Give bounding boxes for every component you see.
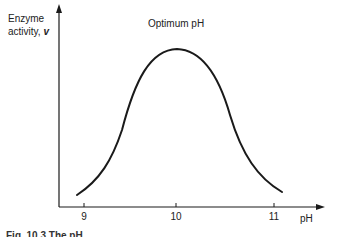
x-axis-arrow-icon xyxy=(316,204,325,210)
chart-plot xyxy=(0,0,350,237)
x-tick-label-11: 11 xyxy=(269,211,279,222)
x-tick-label-9: 9 xyxy=(81,211,87,222)
x-axis-label: pH xyxy=(300,213,313,224)
activity-curve xyxy=(77,49,282,195)
x-tick-label-10: 10 xyxy=(170,211,181,222)
figure-caption: Fig. 10.3 The pH xyxy=(6,230,83,237)
y-axis-arrow-icon xyxy=(56,4,62,13)
optimum-ph-annotation: Optimum pH xyxy=(148,18,204,29)
